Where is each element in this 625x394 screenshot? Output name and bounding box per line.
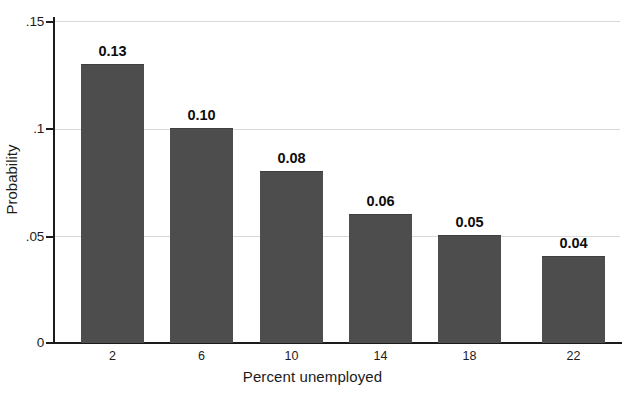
x-tick-label-2: 10	[260, 349, 323, 363]
y-tick-mark-0.15	[46, 21, 55, 23]
x-tick-label-1: 6	[170, 349, 233, 363]
gridline-0.15	[55, 21, 620, 22]
bar-value-label-1: 0.10	[170, 107, 233, 123]
bar-chart-figure: .15 .1 .05 0 0.13 0.10 0.08 0.06 0.05 0.…	[0, 0, 625, 394]
x-tick-label-3: 14	[349, 349, 412, 363]
x-tick-label-0: 2	[81, 349, 144, 363]
y-tick-mark-0.10	[46, 128, 55, 130]
bar-3	[349, 214, 412, 343]
y-axis-title: Probability	[3, 125, 20, 235]
y-axis-line	[53, 17, 55, 344]
bar-1	[170, 128, 233, 343]
x-tick-label-4: 18	[438, 349, 501, 363]
bar-value-label-5: 0.04	[542, 235, 605, 251]
y-tick-label-0: 0	[0, 335, 44, 350]
x-tick-label-5: 22	[542, 349, 605, 363]
bar-0	[81, 64, 144, 343]
y-tick-label-0.15: .15	[0, 14, 44, 29]
bar-value-label-4: 0.05	[438, 214, 501, 230]
bar-5	[542, 256, 605, 343]
bar-2	[260, 171, 323, 343]
y-tick-mark-0	[46, 342, 55, 344]
y-tick-mark-0.05	[46, 236, 55, 238]
bar-value-label-0: 0.13	[81, 43, 144, 59]
x-axis-title: Percent unemployed	[0, 368, 625, 385]
bar-value-label-3: 0.06	[349, 193, 412, 209]
bar-value-label-2: 0.08	[260, 150, 323, 166]
bar-4	[438, 235, 501, 343]
